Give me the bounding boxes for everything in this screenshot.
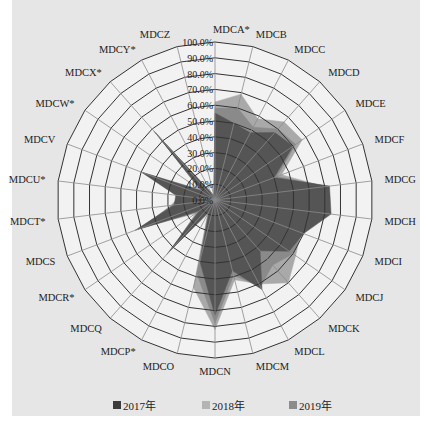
svg-text:10.0%: 10.0% (187, 179, 213, 190)
svg-text:MDCV: MDCV (24, 134, 56, 145)
legend-label: 2018年 (212, 397, 245, 413)
svg-text:60.0%: 60.0% (187, 100, 213, 111)
svg-text:MDCZ: MDCZ (140, 29, 170, 40)
ring-labels: 0.0%10.0%20.0%30.0%40.0%50.0%60.0%70.0%8… (182, 37, 213, 206)
svg-text:MDCT*: MDCT* (10, 216, 46, 227)
svg-text:MDCY*: MDCY* (99, 44, 136, 55)
svg-text:70.0%: 70.0% (187, 84, 213, 95)
svg-text:30.0%: 30.0% (187, 148, 213, 159)
svg-text:MDCP*: MDCP* (101, 346, 136, 357)
svg-text:MDCE: MDCE (355, 98, 385, 109)
svg-text:MDCQ: MDCQ (70, 323, 102, 334)
svg-text:MDCD: MDCD (328, 67, 360, 78)
svg-text:MDCF: MDCF (375, 134, 405, 145)
svg-text:50.0%: 50.0% (187, 116, 213, 127)
legend-item-2018: 2018年 (202, 397, 245, 413)
svg-text:MDCN: MDCN (199, 366, 231, 377)
legend-swatch-icon (113, 401, 121, 409)
svg-text:MDCX*: MDCX* (65, 67, 102, 78)
svg-text:MDCG: MDCG (384, 174, 416, 185)
legend-label: 2019年 (299, 397, 332, 413)
legend-item-2017: 2017年 (113, 397, 156, 413)
radar-chart: 0.0%10.0%20.0%30.0%40.0%50.0%60.0%70.0%8… (0, 0, 428, 427)
legend-swatch-icon (202, 401, 210, 409)
svg-text:MDCH: MDCH (384, 216, 416, 227)
svg-text:MDCR*: MDCR* (38, 292, 74, 303)
svg-text:MDCJ: MDCJ (355, 292, 383, 303)
svg-text:80.0%: 80.0% (187, 69, 213, 80)
svg-text:MDCM: MDCM (256, 361, 290, 372)
svg-text:MDCL: MDCL (294, 346, 324, 357)
svg-text:MDCS: MDCS (26, 256, 56, 267)
svg-text:MDCK: MDCK (328, 323, 360, 334)
legend-label: 2017年 (123, 397, 156, 413)
svg-text:20.0%: 20.0% (187, 163, 213, 174)
svg-text:MDCB: MDCB (256, 29, 287, 40)
svg-text:MDCW*: MDCW* (35, 98, 74, 109)
svg-text:MDCI: MDCI (375, 256, 403, 267)
svg-text:90.0%: 90.0% (187, 53, 213, 64)
svg-text:MDCC: MDCC (294, 44, 325, 55)
svg-text:40.0%: 40.0% (187, 132, 213, 143)
legend-swatch-icon (289, 401, 297, 409)
svg-text:MDCO: MDCO (143, 361, 175, 372)
legend-item-2019: 2019年 (289, 397, 332, 413)
svg-text:100.0%: 100.0% (182, 37, 213, 48)
legend: 2017年 2018年 2019年 (0, 397, 428, 413)
svg-text:MDCA*: MDCA* (213, 24, 250, 35)
svg-text:MDCU*: MDCU* (9, 174, 46, 185)
svg-text:0.0%: 0.0% (192, 195, 213, 206)
